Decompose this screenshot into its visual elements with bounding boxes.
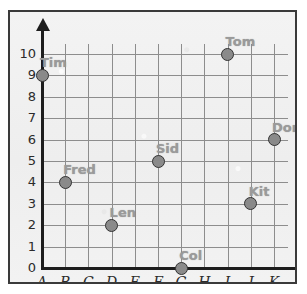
gridline-vertical-k <box>274 44 275 268</box>
x-axis-tick-label-b: B <box>55 275 75 284</box>
gridline-horizontal-9 <box>42 75 288 76</box>
data-point-label-col: Col <box>179 249 202 262</box>
gridline-vertical-h <box>204 44 205 268</box>
y-axis-tick-label-10: 10 <box>14 47 36 60</box>
y-axis-tick-label-0: 0 <box>14 261 36 274</box>
gridline-vertical-c <box>88 44 89 268</box>
gridline-horizontal-8 <box>42 97 288 98</box>
gridline-horizontal-7 <box>42 118 288 119</box>
x-axis-tick-label-a: A <box>32 275 52 284</box>
gridline-horizontal-1 <box>42 247 288 248</box>
x-axis-tick-label-i: I <box>218 275 238 284</box>
y-axis-arrow-icon <box>36 18 50 31</box>
x-axis-tick-label-k: K <box>264 275 284 284</box>
data-point-fred[interactable] <box>59 176 72 189</box>
data-point-len[interactable] <box>105 219 118 232</box>
x-axis-tick-label-h: H <box>194 275 214 284</box>
data-point-label-don: Don <box>272 121 297 134</box>
gridline-vertical-d <box>112 44 113 268</box>
gridline-vertical-g <box>181 44 182 268</box>
y-axis-tick-label-7: 7 <box>14 111 36 124</box>
y-axis-tick-label-2: 2 <box>14 218 36 231</box>
data-point-kit[interactable] <box>244 197 257 210</box>
y-axis-tick-label-4: 4 <box>14 175 36 188</box>
x-axis-tick-label-d: D <box>102 275 122 284</box>
x-axis-tick-label-f: F <box>148 275 168 284</box>
gridline-vertical-i <box>228 44 229 268</box>
gridline-horizontal-2 <box>42 225 288 226</box>
data-point-tim[interactable] <box>36 69 49 82</box>
y-axis-tick-label-3: 3 <box>14 197 36 210</box>
data-point-label-tom: Tom <box>226 35 256 48</box>
data-point-label-kit: Kit <box>249 185 270 198</box>
gridline-vertical-j <box>251 44 252 268</box>
gridline-vertical-b <box>65 44 66 268</box>
scatter-plot-area: 012345678910ABCDEFGHIJKTimFredLenSidColT… <box>10 12 295 282</box>
data-point-don[interactable] <box>268 133 281 146</box>
data-point-col[interactable] <box>175 262 188 275</box>
x-axis-tick-label-g: G <box>171 275 191 284</box>
gridline-horizontal-10 <box>42 54 288 55</box>
x-axis-tick-label-c: C <box>78 275 98 284</box>
y-axis-tick-label-9: 9 <box>14 68 36 81</box>
y-axis-tick-label-6: 6 <box>14 133 36 146</box>
x-axis <box>41 267 297 270</box>
y-axis-tick-label-8: 8 <box>14 90 36 103</box>
data-point-label-tim: Tim <box>40 56 67 69</box>
data-point-sid[interactable] <box>152 155 165 168</box>
data-point-label-len: Len <box>110 206 136 219</box>
y-axis-tick-label-5: 5 <box>14 154 36 167</box>
data-point-tom[interactable] <box>221 48 234 61</box>
x-axis-tick-label-j: J <box>241 275 261 284</box>
y-axis-tick-label-1: 1 <box>14 240 36 253</box>
data-point-label-sid: Sid <box>156 142 179 155</box>
chart-frame: 012345678910ABCDEFGHIJKTimFredLenSidColT… <box>8 10 297 284</box>
x-axis-tick-label-e: E <box>125 275 145 284</box>
data-point-label-fred: Fred <box>63 163 96 176</box>
gridline-vertical-e <box>135 44 136 268</box>
